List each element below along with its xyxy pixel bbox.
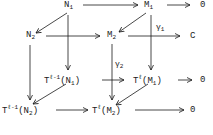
node-N2-sub: 2 [31,34,35,41]
arrow-M1-M2 [119,13,146,32]
node-T-N1-close: ) [75,76,80,86]
node-T-M1-close: ) [156,76,161,86]
label-gamma2-sub: 2 [120,63,124,70]
node-T-N2-sup: ℓ-1 [7,104,18,111]
node-zero-4: 0 [190,106,195,115]
node-N2: N2 [26,31,35,42]
node-M1-sub: 1 [149,4,153,11]
node-zero-2: C [190,32,195,41]
label-gamma1: γ1 [156,23,164,34]
arrow-N1-N2 [36,13,67,33]
label-gamma2: γ2 [115,60,123,71]
node-zero-1-text: 0 [200,0,205,10]
node-T-M1-arg: (M [142,76,153,86]
node-M2-sub: 2 [112,34,116,41]
node-zero-3-text: 0 [200,75,205,85]
node-T-N1: Tℓ-1(N1) [44,73,80,88]
node-T-N2-arg: (N [18,106,29,116]
node-zero-2-text: C [190,31,195,41]
node-T-N1-sup: ℓ-1 [49,74,60,81]
node-T-M1: Tℓ(M1) [133,73,162,88]
node-T-M2-close: ) [115,106,120,116]
node-T-N1-arg: (N [60,76,71,86]
label-gamma1-sub: 1 [161,26,165,33]
node-M2: M2 [107,31,116,42]
node-zero-1: 0 [200,1,205,10]
node-zero-3: 0 [200,76,205,85]
node-T-N2: Tℓ-1(N2) [2,103,38,118]
node-N1: N1 [64,1,73,12]
node-N1-sub: 1 [69,4,73,11]
node-T-M2: Tℓ(M2) [92,103,121,118]
node-zero-4-text: 0 [190,105,195,115]
node-M1: M1 [144,1,153,12]
node-T-M2-arg: (M [101,106,112,116]
node-T-N2-close: ) [33,106,38,116]
